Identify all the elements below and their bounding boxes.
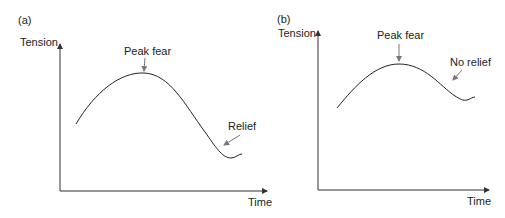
panel-b-no-relief-label: No relief bbox=[450, 57, 491, 68]
panel-b bbox=[318, 31, 489, 190]
panel-a-x-axis-label: Time bbox=[248, 197, 272, 208]
panel-a-relief-label: Relief bbox=[228, 121, 256, 132]
panel-b-x-axis-label: Time bbox=[467, 196, 491, 207]
panel-a bbox=[60, 44, 267, 191]
panel-a-tag: (a) bbox=[18, 15, 31, 26]
panel-b-tag: (b) bbox=[277, 14, 290, 25]
panel-b-peak-label: Peak fear bbox=[377, 30, 424, 41]
panel-a-y-axis-label: Tension bbox=[20, 37, 58, 48]
panel-a-peak-label: Peak fear bbox=[124, 46, 171, 57]
panel-b-y-axis-label: Tension bbox=[278, 28, 316, 39]
panel-a-relief-arrow bbox=[224, 135, 240, 145]
panel-a-peak-arrow bbox=[144, 58, 145, 71]
panel-b-tension-curve bbox=[337, 64, 475, 108]
panel-a-tension-curve bbox=[76, 73, 242, 158]
panel-b-no-relief-arrow bbox=[453, 70, 462, 80]
diagram-canvas bbox=[0, 0, 505, 218]
